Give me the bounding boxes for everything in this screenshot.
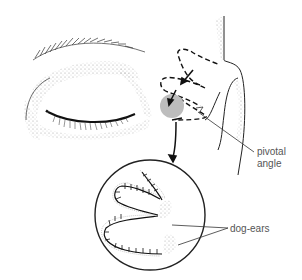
eye-socket-shading (24, 61, 152, 140)
magnified-inset (95, 160, 205, 270)
nose-shading (215, 16, 225, 62)
diagram-canvas: pivotal angle dog-ears (0, 0, 302, 280)
illustration (0, 0, 302, 280)
incision-lines (169, 118, 182, 162)
eyebrow (33, 38, 145, 60)
pivotal-angle-leader (198, 112, 254, 152)
label-dog-ears: dog-ears (230, 223, 269, 234)
closed-eyelid (46, 111, 135, 131)
nose-shading-side (234, 80, 243, 140)
label-pivotal-angle-line2: angle (257, 158, 281, 169)
label-pivotal-angle-line1: pivotal (257, 146, 286, 157)
